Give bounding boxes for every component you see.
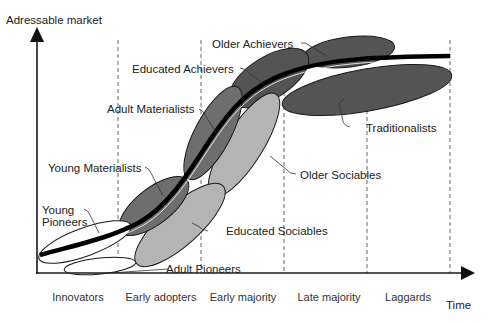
label-young-materialists: Young Materialists	[48, 162, 142, 174]
phase-early-adopters: Early adopters	[126, 291, 197, 303]
phase-late-majority: Late majority	[298, 291, 361, 303]
y-axis-arrow-icon	[30, 27, 44, 42]
phase-laggards: Laggards	[385, 291, 431, 303]
phase-innovators: Innovators	[52, 291, 104, 303]
phase-labels: Innovators Early adopters Early majority…	[52, 291, 431, 303]
label-adult-materialists: Adult Materialists	[107, 103, 195, 115]
adoption-diagram: Older Achievers Educated Achievers Adult…	[0, 0, 491, 323]
label-traditionalists: Traditionalists	[366, 122, 437, 134]
y-axis-label: Adressable market	[6, 14, 103, 26]
label-older-achievers: Older Achievers	[212, 38, 293, 50]
label-educated-sociables: Educated Sociables	[226, 225, 328, 237]
x-axis-arrow-icon	[461, 266, 475, 280]
x-axis-label: Time	[446, 299, 471, 311]
phase-early-majority: Early majority	[210, 291, 277, 303]
label-adult-pioneers: Adult Pioneers	[166, 263, 241, 275]
label-young-pioneers-1: Young	[42, 204, 74, 216]
label-young-pioneers-2: Pioneers	[42, 216, 88, 228]
label-educated-achievers: Educated Achievers	[132, 63, 234, 75]
label-older-sociables: Older Sociables	[300, 169, 381, 181]
